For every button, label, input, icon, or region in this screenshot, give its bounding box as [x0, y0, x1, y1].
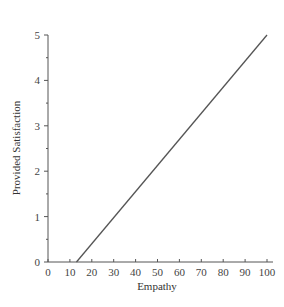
x-tick-label: 70 — [196, 266, 208, 278]
x-tick-label: 30 — [108, 266, 120, 278]
y-tick-label: 1 — [35, 211, 41, 223]
x-tick-label: 40 — [130, 266, 142, 278]
series-line — [76, 35, 267, 262]
x-tick-label: 10 — [64, 266, 76, 278]
x-tick-label: 100 — [259, 266, 276, 278]
x-tick-label: 80 — [218, 266, 230, 278]
line-chart: 012345 0102030405060708090100 Empathy Pr… — [0, 0, 284, 307]
y-axis-label: Provided Satisfaction — [10, 100, 22, 195]
x-tick-label: 90 — [240, 266, 252, 278]
x-tick-label: 20 — [86, 266, 98, 278]
y-tick-label: 0 — [35, 256, 41, 268]
y-tick-label: 2 — [35, 165, 41, 177]
y-tick-label: 5 — [35, 29, 41, 41]
x-tick-label: 60 — [174, 266, 186, 278]
x-axis: 0102030405060708090100 — [45, 259, 276, 278]
y-tick-label: 4 — [35, 74, 41, 86]
y-tick-label: 3 — [35, 120, 41, 132]
data-series — [76, 35, 267, 262]
y-axis: 012345 — [35, 29, 49, 268]
x-tick-label: 0 — [45, 266, 51, 278]
x-tick-label: 50 — [152, 266, 164, 278]
x-axis-label: Empathy — [137, 280, 177, 292]
